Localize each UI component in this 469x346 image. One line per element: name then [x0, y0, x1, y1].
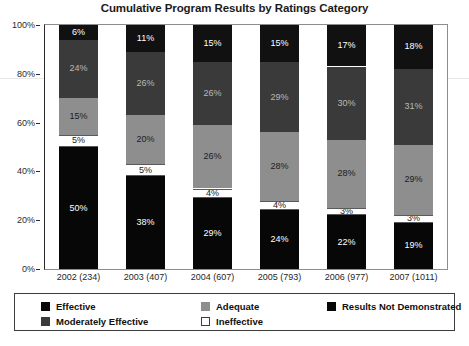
bar-segment-label: 31% [404, 102, 422, 111]
bar-segment[interactable]: 15% [193, 25, 232, 62]
bar-segment-label: 38% [136, 218, 154, 227]
bar-segment-label: 5% [139, 166, 152, 175]
bar-stack: 24%4%28%29%15% [260, 25, 299, 269]
bar-segment-label: 26% [203, 152, 221, 161]
bar-segment[interactable]: 20% [126, 115, 165, 164]
y-tick-label: 60% [17, 118, 35, 128]
bar-segment[interactable]: 31% [394, 69, 433, 145]
bar-segment[interactable]: 50% [59, 147, 98, 269]
bar-segment[interactable]: 29% [193, 198, 232, 269]
bar-segment[interactable]: 19% [394, 223, 433, 269]
bar-segment-label: 22% [337, 238, 355, 247]
legend-label: Ineffective [216, 316, 263, 327]
legend-item[interactable]: Adequate [201, 301, 259, 312]
bar-segment[interactable]: 26% [193, 125, 232, 188]
bar-stack: 29%4%26%26%15% [193, 25, 232, 269]
bar-segment-label: 6% [72, 28, 85, 37]
bar-segment-label: 24% [69, 64, 87, 73]
bar-segment[interactable]: 5% [59, 135, 98, 147]
x-tick-label: 2003 (407) [124, 272, 168, 282]
bar-stack: 19%3%29%31%18% [394, 25, 433, 269]
bar-segment[interactable]: 4% [193, 189, 232, 199]
bar-segment-label: 11% [137, 34, 154, 43]
bar-segment-label: 20% [136, 135, 154, 144]
legend-swatch-icon [41, 302, 50, 311]
bar-segment-label: 29% [270, 93, 288, 102]
legend-swatch-icon [327, 302, 336, 311]
y-tick-label: 20% [17, 215, 35, 225]
bar-group[interactable]: 50%5%15%24%6% [59, 25, 98, 269]
x-tick-label: 2006 (977) [325, 272, 369, 282]
bar-segment[interactable]: 6% [59, 25, 98, 40]
bar-segment[interactable]: 4% [260, 201, 299, 211]
bar-group[interactable]: 24%4%28%29%15% [260, 25, 299, 269]
bar-segment[interactable]: 24% [260, 210, 299, 269]
bar-stack: 38%5%20%26%11% [126, 25, 165, 269]
bar-segment[interactable]: 29% [394, 145, 433, 216]
bar-segment-label: 17% [337, 41, 355, 50]
bar-group[interactable]: 22%3%28%30%17% [327, 25, 366, 269]
bar-segment[interactable]: 29% [260, 62, 299, 133]
bar-segment[interactable]: 18% [394, 25, 433, 69]
bar-segment[interactable]: 3% [394, 215, 433, 222]
y-tick-label: 40% [17, 166, 35, 176]
bar-segment-label: 24% [270, 235, 288, 244]
bar-segment[interactable]: 30% [327, 67, 366, 140]
bar-segment-label: 28% [337, 169, 355, 178]
y-tick-label: 0% [22, 264, 35, 274]
legend-item[interactable]: Ineffective [201, 316, 263, 327]
y-tick-mark [36, 74, 40, 75]
x-tick-label: 2007 (1011) [390, 272, 438, 282]
x-tick-label: 2005 (793) [258, 272, 302, 282]
legend-label: Effective [56, 301, 96, 312]
bar-segment-label: 4% [206, 189, 219, 198]
bar-group[interactable]: 19%3%29%31%18% [394, 25, 433, 269]
bar-stack: 50%5%15%24%6% [59, 25, 98, 269]
y-tick-mark [36, 171, 40, 172]
bar-segment-label: 19% [404, 241, 422, 250]
bar-group[interactable]: 29%4%26%26%15% [193, 25, 232, 269]
bars-layer: 50%5%15%24%6%38%5%20%26%11%29%4%26%26%15… [45, 25, 447, 269]
x-tick-label: 2002 (234) [57, 272, 101, 282]
stacked-bar-chart: Cumulative Program Results by Ratings Ca… [0, 0, 469, 346]
bar-segment-label: 3% [407, 215, 420, 222]
legend-label: Moderately Effective [56, 316, 148, 327]
bar-segment-label: 4% [273, 201, 286, 210]
bar-segment[interactable]: 15% [260, 25, 299, 62]
y-tick-mark [36, 220, 40, 221]
bar-segment[interactable]: 5% [126, 164, 165, 176]
y-tick-mark [36, 123, 40, 124]
legend-swatch-icon [201, 317, 210, 326]
y-tick-label: 100% [12, 20, 35, 30]
bar-segment[interactable]: 26% [193, 62, 232, 125]
bar-segment[interactable]: 22% [327, 215, 366, 269]
bar-segment[interactable]: 11% [126, 25, 165, 52]
bar-segment-label: 15% [69, 112, 87, 121]
bar-segment-label: 15% [270, 39, 288, 48]
bar-segment-label: 29% [203, 229, 221, 238]
legend-swatch-icon [201, 302, 210, 311]
x-axis: 2002 (234)2003 (407)2004 (607)2005 (793)… [45, 272, 447, 288]
y-axis: 0%20%40%60%80%100% [0, 24, 40, 270]
bar-segment[interactable]: 24% [59, 40, 98, 99]
bar-segment[interactable]: 38% [126, 176, 165, 269]
legend-label: Results Not Demonstrated [342, 301, 461, 312]
y-tick-mark [36, 25, 40, 26]
bar-segment[interactable]: 28% [327, 140, 366, 208]
legend-item[interactable]: Effective [41, 301, 96, 312]
bar-segment[interactable]: 17% [327, 25, 366, 66]
bar-segment-label: 29% [404, 175, 422, 184]
bar-segment-label: 30% [337, 99, 355, 108]
bar-segment[interactable]: 28% [260, 132, 299, 200]
bar-segment[interactable]: 15% [59, 98, 98, 135]
legend-item[interactable]: Moderately Effective [41, 316, 148, 327]
bar-segment-label: 28% [270, 162, 288, 171]
bar-segment-label: 26% [136, 79, 154, 88]
bar-group[interactable]: 38%5%20%26%11% [126, 25, 165, 269]
bar-stack: 22%3%28%30%17% [327, 25, 366, 269]
bar-segment[interactable]: 3% [327, 208, 366, 215]
legend-item[interactable]: Results Not Demonstrated [327, 301, 461, 312]
bar-segment-label: 15% [203, 39, 221, 48]
bar-segment[interactable]: 26% [126, 52, 165, 115]
x-tick-label: 2004 (607) [191, 272, 235, 282]
